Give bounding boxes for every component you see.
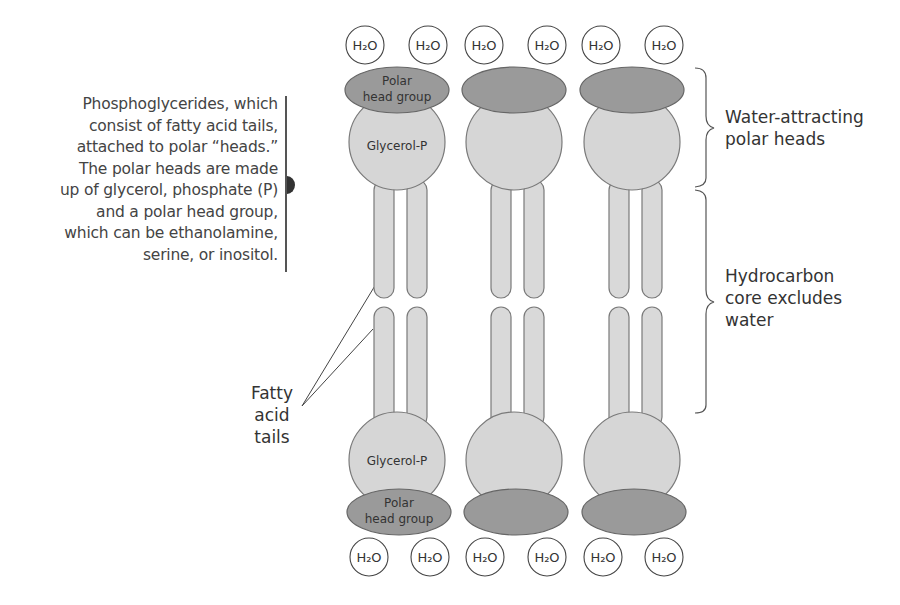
brace-polar-heads <box>695 68 714 187</box>
fatty-acid-tail <box>609 307 629 427</box>
water-molecule: H₂O <box>582 26 620 64</box>
water-label: H₂O <box>417 550 442 565</box>
water-label: H₂O <box>534 550 559 565</box>
fatty-acid-tail <box>491 307 511 427</box>
water-label: H₂O <box>651 550 676 565</box>
fatty-acid-tail <box>642 307 662 427</box>
water-molecule: H₂O <box>409 26 447 64</box>
polar-head-label: head group <box>363 90 432 104</box>
phospholipid-column <box>580 67 686 535</box>
fatty-acid-tail <box>374 307 394 427</box>
label-line: water <box>725 309 842 331</box>
water-molecule: H₂O <box>645 26 683 64</box>
fatty-acid-tail <box>407 180 427 298</box>
fatty-acid-tail <box>374 180 394 298</box>
polar-head-group <box>580 67 684 113</box>
water-molecule: H₂O <box>346 26 384 64</box>
water-label: H₂O <box>472 550 497 565</box>
water-molecule: H₂O <box>584 538 622 576</box>
fatty-acid-tail <box>407 307 427 427</box>
polar-head-label: Polar <box>384 496 414 510</box>
label-line: Fatty <box>242 382 302 404</box>
label-fatty-acid-tails: Fatty acid tails <box>242 382 302 448</box>
label-line: tails <box>242 426 302 448</box>
brace-hydrocarbon-core <box>695 190 714 413</box>
water-molecule: H₂O <box>528 538 566 576</box>
polar-head-label: Polar <box>382 74 412 88</box>
phospholipid-molecules: Polarhead groupGlycerol-PGlycerol-PPolar… <box>345 67 686 535</box>
phospholipid-column: Polarhead groupGlycerol-PGlycerol-PPolar… <box>345 67 451 535</box>
water-molecule: H₂O <box>350 538 388 576</box>
label-water-attracting: Water-attracting polar heads <box>725 106 864 150</box>
fatty-acid-tail <box>642 180 662 298</box>
phospholipid-column <box>462 67 568 535</box>
water-molecule: H₂O <box>528 26 566 64</box>
fatty-acid-tail <box>491 180 511 298</box>
water-molecule: H₂O <box>465 26 503 64</box>
water-label: H₂O <box>534 38 559 53</box>
pointer-line <box>302 329 373 406</box>
polar-head-group <box>462 67 566 113</box>
label-line: core excludes <box>725 287 842 309</box>
label-line: Hydrocarbon <box>725 265 842 287</box>
water-label: H₂O <box>352 38 377 53</box>
fatty-acid-tail <box>524 307 544 427</box>
water-label: H₂O <box>471 38 496 53</box>
fatty-acid-tail <box>524 180 544 298</box>
pointer-line <box>302 284 376 406</box>
label-line: Water-attracting <box>725 106 864 128</box>
label-hydrocarbon-core: Hydrocarbon core excludes water <box>725 265 842 331</box>
caption-marker-icon <box>287 176 295 194</box>
polar-head-group <box>582 489 686 535</box>
fatty-acid-tail <box>609 180 629 298</box>
polar-head-group <box>464 489 568 535</box>
glycerol-label: Glycerol-P <box>367 454 428 468</box>
water-label: H₂O <box>590 550 615 565</box>
label-line: polar heads <box>725 128 864 150</box>
water-molecule: H₂O <box>466 538 504 576</box>
water-molecule: H₂O <box>645 538 683 576</box>
label-line: acid <box>242 404 302 426</box>
water-label: H₂O <box>415 38 440 53</box>
water-label: H₂O <box>651 38 676 53</box>
polar-head-label: head group <box>365 512 434 526</box>
glycerol-label: Glycerol-P <box>367 139 428 153</box>
water-label: H₂O <box>588 38 613 53</box>
water-label: H₂O <box>356 550 381 565</box>
water-molecule: H₂O <box>411 538 449 576</box>
